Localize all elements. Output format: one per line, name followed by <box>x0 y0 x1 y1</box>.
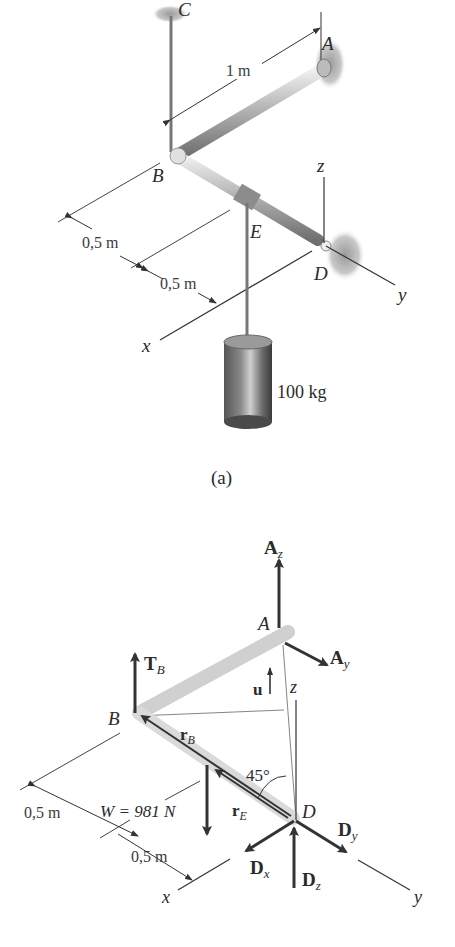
figure-b: z Az A Ay TB u B rB rE 45° W = 981 N D D… <box>20 537 422 907</box>
label-re: rE <box>232 801 248 823</box>
label-y-a: y <box>396 284 407 305</box>
y-axis-b <box>358 860 410 890</box>
dim-be-b: 0,5 m <box>24 804 61 821</box>
label-a: A <box>320 33 334 54</box>
weight-cylinder <box>224 335 272 429</box>
force-ay-arrow <box>285 643 327 665</box>
x-axis-a <box>160 251 312 340</box>
label-d: D <box>313 263 328 284</box>
label-angle: 45° <box>246 766 270 785</box>
figure-a: C A 1 m z y x B E D 0,5 m <box>58 0 407 489</box>
label-z-a: z <box>316 155 325 176</box>
dim-ed-b: 0,5 m <box>131 848 168 865</box>
label-u: u <box>253 680 262 699</box>
label-c: C <box>178 0 191 20</box>
label-az: Az <box>264 537 283 561</box>
weight-label: W = 981 N <box>100 802 177 821</box>
label-e: E <box>249 221 262 242</box>
label-dz: Dz <box>302 869 321 893</box>
rod-ab <box>178 70 322 155</box>
label-rb: rB <box>180 725 196 747</box>
label-y-b: y <box>412 887 422 907</box>
dim-ab: 1 m <box>226 62 251 79</box>
x-axis-b <box>178 859 230 890</box>
label-d-b: D <box>301 801 316 822</box>
dim-ed-a: 0,5 m <box>160 275 197 292</box>
mass-label: 100 kg <box>277 382 327 402</box>
label-x-a: x <box>141 335 151 356</box>
label-ay: Ay <box>330 647 350 671</box>
caption-a: (a) <box>211 467 232 489</box>
dim-be-a: 0,5 m <box>82 234 119 251</box>
label-dy: Dy <box>338 819 358 843</box>
label-tb: TB <box>144 653 165 677</box>
label-dx: Dx <box>250 857 270 881</box>
label-x-b: x <box>161 887 170 907</box>
label-b-b: B <box>108 708 120 729</box>
label-a-b: A <box>256 613 270 634</box>
label-b: B <box>152 165 164 186</box>
statics-figure: C A 1 m z y x B E D 0,5 m <box>0 0 455 947</box>
label-z-b: z <box>289 677 297 697</box>
force-dx-arrow <box>246 821 294 851</box>
wall-support-d <box>325 229 365 281</box>
